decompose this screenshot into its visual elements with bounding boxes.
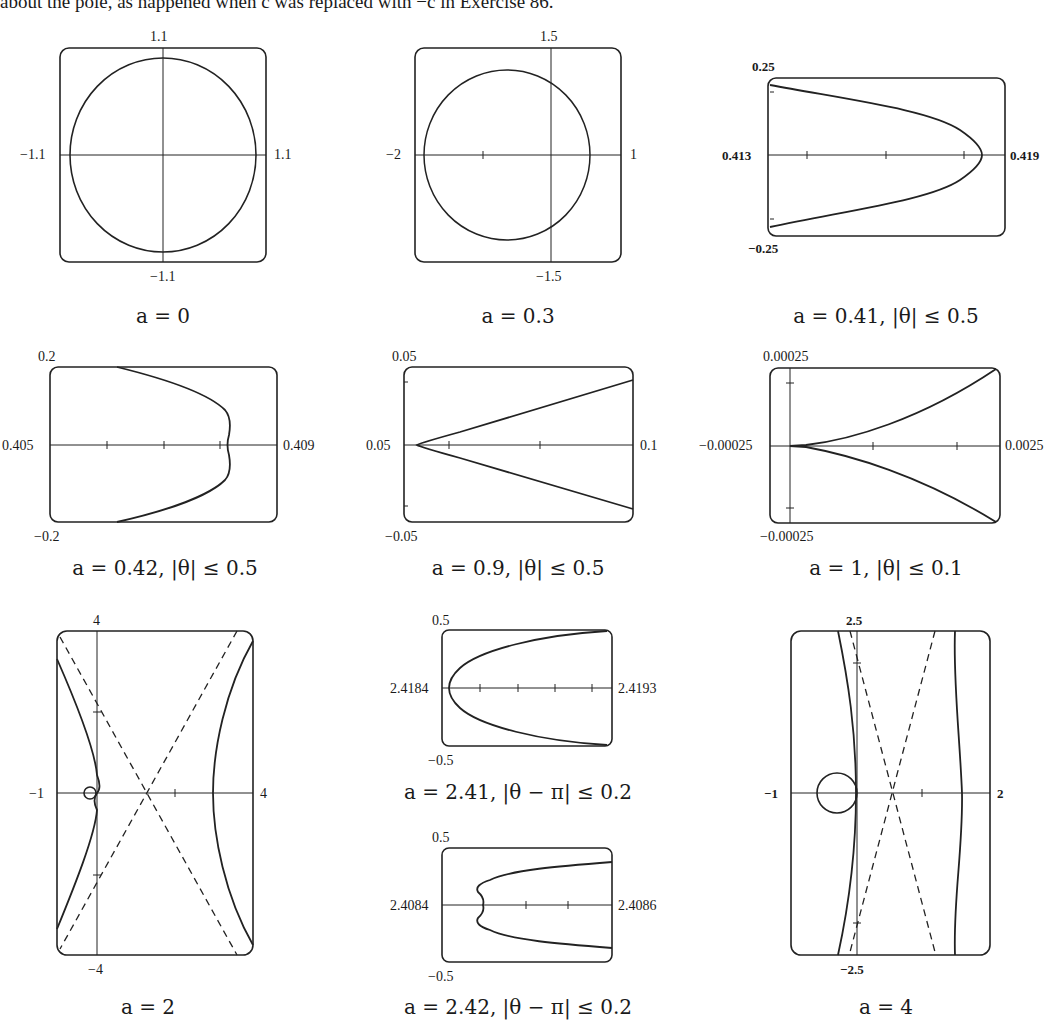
p2-label-left: −2 xyxy=(386,148,401,162)
p3-label-top: 0.25 xyxy=(752,60,775,73)
p10-label-bottom: −2.5 xyxy=(840,963,864,976)
p9-label-bottom: −0.5 xyxy=(428,970,453,984)
plot-a042 xyxy=(50,367,277,522)
p8-caption: a = 2.41, |θ − π| ≤ 0.2 xyxy=(404,782,632,802)
p8-label-top: 0.5 xyxy=(432,614,450,628)
p5-label-right: 0.1 xyxy=(640,439,658,453)
p3-caption: a = 0.41, |θ| ≤ 0.5 xyxy=(793,306,978,326)
p10-label-left: −1 xyxy=(764,787,778,800)
plot-a4 xyxy=(791,631,990,955)
p4-caption: a = 0.42, |θ| ≤ 0.5 xyxy=(72,558,257,578)
p9-label-right: 2.4086 xyxy=(618,899,657,913)
p4-label-left: 0.405 xyxy=(2,439,34,453)
p7-label-right: 4 xyxy=(260,787,267,801)
p8-label-bottom: −0.5 xyxy=(428,754,453,768)
p2-label-right: 1 xyxy=(630,148,637,162)
p9-label-left: 2.4084 xyxy=(390,899,429,913)
p7-label-bottom: −4 xyxy=(88,963,103,977)
p5-caption: a = 0.9, |θ| ≤ 0.5 xyxy=(432,558,605,578)
plot-a041 xyxy=(768,78,1005,236)
p3-label-right: 0.419 xyxy=(1010,149,1039,162)
p8-label-right: 2.4193 xyxy=(618,682,657,696)
p7-caption: a = 2 xyxy=(121,997,175,1017)
p1-label-bottom: −1.1 xyxy=(150,270,175,284)
p4-label-bottom: −0.2 xyxy=(34,530,59,544)
p6-label-right: 0.0025 xyxy=(1005,439,1044,453)
p7-label-left: −1 xyxy=(29,787,44,801)
plot-a2 xyxy=(57,631,253,955)
plot-a0 xyxy=(60,48,266,262)
p6-label-top: 0.00025 xyxy=(763,350,809,364)
p1-caption: a = 0 xyxy=(136,306,190,326)
p3-label-left: 0.413 xyxy=(722,149,751,162)
p9-caption: a = 2.42, |θ − π| ≤ 0.2 xyxy=(404,997,632,1017)
figure-plots xyxy=(0,0,1055,1026)
p1-label-left: −1.1 xyxy=(20,148,45,162)
p9-label-top: 0.5 xyxy=(432,831,450,845)
p4-label-right: 0.409 xyxy=(283,439,315,453)
plot-a09 xyxy=(404,367,633,522)
p5-label-bottom: −0.05 xyxy=(385,530,417,544)
plot-a241 xyxy=(442,630,612,746)
plot-a03 xyxy=(415,48,621,262)
p2-label-bottom: −1.5 xyxy=(536,270,561,284)
p6-label-bottom: −0.00025 xyxy=(760,530,813,544)
p10-caption: a = 4 xyxy=(859,997,913,1017)
p3-label-bottom: −0.25 xyxy=(748,242,778,255)
p5-label-left: 0.05 xyxy=(366,439,391,453)
p2-caption: a = 0.3 xyxy=(481,306,554,326)
p4-label-top: 0.2 xyxy=(38,350,56,364)
p1-label-right: 1.1 xyxy=(274,148,292,162)
p6-label-left: −0.00025 xyxy=(699,439,752,453)
p10-label-top: 2.5 xyxy=(846,614,862,627)
plot-a1 xyxy=(770,368,1000,523)
p5-label-top: 0.05 xyxy=(392,350,417,364)
p2-label-top: 1.5 xyxy=(540,30,558,44)
p7-label-top: 4 xyxy=(93,614,100,628)
p10-label-right: 2 xyxy=(997,787,1004,800)
plot-a242 xyxy=(442,848,612,962)
p1-label-top: 1.1 xyxy=(150,30,168,44)
p8-label-left: 2.4184 xyxy=(390,682,429,696)
p6-caption: a = 1, |θ| ≤ 0.1 xyxy=(809,558,963,578)
